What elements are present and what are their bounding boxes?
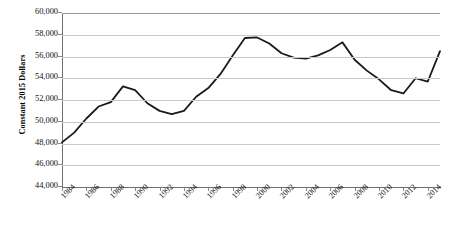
gridline bbox=[62, 100, 440, 101]
y-tick-label: 48,000 bbox=[12, 139, 58, 147]
x-tickmark bbox=[135, 188, 136, 191]
x-tickmark bbox=[355, 188, 356, 191]
y-tick-label: 58,000 bbox=[12, 30, 58, 38]
x-tickmark bbox=[86, 188, 87, 191]
x-tickmark bbox=[208, 188, 209, 191]
x-tickmark bbox=[62, 188, 63, 191]
series-line bbox=[62, 37, 440, 142]
x-tickmark bbox=[379, 188, 380, 191]
x-tickmark bbox=[111, 188, 112, 191]
gridline bbox=[62, 144, 440, 145]
x-tickmark bbox=[160, 188, 161, 191]
x-tickmark bbox=[184, 188, 185, 191]
y-tick-label: 46,000 bbox=[12, 160, 58, 168]
gridline bbox=[62, 57, 440, 58]
x-tickmark bbox=[233, 188, 234, 191]
gridline bbox=[62, 35, 440, 36]
line-chart: Constant 2015 Dollars 60,00058,00056,000… bbox=[0, 0, 451, 236]
x-tickmark bbox=[257, 188, 258, 191]
x-tickmark bbox=[306, 188, 307, 191]
y-tick-label: 60,000 bbox=[12, 8, 58, 16]
y-axis-tick-labels: 60,00058,00056,00054,00052,00050,00048,0… bbox=[12, 0, 58, 200]
y-tick-label: 56,000 bbox=[12, 52, 58, 60]
y-tick-label: 52,000 bbox=[12, 95, 58, 103]
y-tick-label: 50,000 bbox=[12, 117, 58, 125]
x-tickmark bbox=[330, 188, 331, 191]
gridline bbox=[62, 78, 440, 79]
y-tick-label: 54,000 bbox=[12, 73, 58, 81]
plot-area bbox=[62, 13, 440, 187]
x-axis-tick-labels: 1984198619881990199219941996199820002002… bbox=[0, 188, 451, 236]
gridline bbox=[62, 165, 440, 166]
gridline bbox=[62, 13, 440, 14]
x-tickmark bbox=[403, 188, 404, 191]
x-tickmark bbox=[428, 188, 429, 191]
x-tickmark bbox=[281, 188, 282, 191]
gridline bbox=[62, 122, 440, 123]
